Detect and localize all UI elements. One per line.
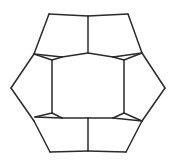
hexagonal-rosette-figure bbox=[0, 0, 176, 167]
outer-edge-bottom-left bbox=[50, 151, 88, 152]
outer-edge-bottom-right bbox=[88, 151, 126, 152]
spoke-lower-left bbox=[35, 117, 62, 118]
figure-canvas bbox=[0, 0, 176, 167]
face-central-hexagon bbox=[52, 57, 124, 118]
